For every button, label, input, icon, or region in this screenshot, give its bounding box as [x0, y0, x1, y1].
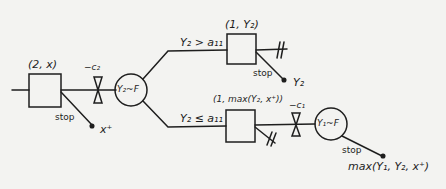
chance1-label: Y₁~F: [317, 118, 339, 128]
upper-branch-condition: Y₂ > a₁₁: [180, 36, 223, 49]
decision-label-upper: (1, Y₂): [225, 18, 259, 31]
decision-box-upper: [227, 34, 256, 64]
cost2-label: −c₂: [84, 62, 100, 72]
chance2-label: Y₂~F: [117, 84, 139, 94]
lower-branch-condition: Y₂ ≤ a₁₁: [180, 112, 223, 125]
upper-stop-terminal: [282, 78, 286, 82]
final-stop-label: stop: [342, 145, 361, 155]
lower-stop-edge: [255, 127, 275, 143]
stop-payoff-1: x⁺: [100, 123, 112, 136]
decision-box-lower: [226, 110, 255, 142]
decision-label-lower: (1, max(Y₂, x⁺)): [213, 94, 283, 104]
upper-stop-payoff: Y₂: [293, 76, 304, 89]
upper-stop-label: stop: [253, 68, 272, 78]
stop-terminal-1: [90, 124, 94, 128]
final-stop-payoff: max(Y₁, Y₂, x⁺): [348, 160, 429, 173]
final-stop-terminal: [381, 154, 385, 158]
stop-label-1: stop: [55, 112, 74, 122]
decision-box-2x: [29, 74, 61, 107]
lower-blocked-mark-1: [267, 132, 272, 145]
lower-continue-edge: [255, 124, 315, 125]
cost1-label: −c₁: [289, 100, 305, 110]
upper-blocked-mark-2: [281, 42, 284, 58]
decision-label-2x: (2, x): [28, 58, 57, 71]
upper-branch-edge: [143, 50, 227, 79]
